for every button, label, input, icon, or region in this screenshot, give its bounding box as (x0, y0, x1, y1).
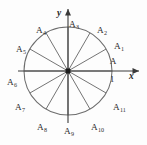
point-label-base: A (16, 44, 23, 54)
x-axis-label: x (128, 71, 134, 81)
point-label-base: A (36, 25, 43, 35)
point-label-A1: A1 (114, 41, 124, 52)
point-label-A7: A7 (15, 102, 25, 113)
unit-circle-figure: AA1A2A3A4A5A6A7A8A9A10A11 x y 1 (0, 0, 147, 145)
point-label-base: A (110, 56, 117, 66)
figure-canvas: AA1A2A3A4A5A6A7A8A9A10A11 x y 1 (0, 0, 147, 145)
point-label-base: A (113, 102, 120, 112)
point-label-subscript: 4 (43, 30, 46, 36)
radius-line-A10 (68, 71, 90, 109)
radius-line-A11 (68, 71, 106, 93)
point-label-A11: A11 (113, 102, 126, 113)
point-label-A2: A2 (97, 25, 107, 36)
point-label-subscript: 1 (121, 46, 124, 52)
point-label-base: A (91, 122, 98, 132)
point-label-A10: A10 (91, 122, 104, 133)
point-label-A5: A5 (16, 44, 26, 55)
point-label-A9: A9 (64, 126, 74, 137)
point-label-subscript: 7 (22, 107, 25, 113)
point-label-subscript: 5 (23, 49, 26, 55)
point-label-subscript: 3 (76, 24, 79, 30)
y-axis-arrowhead (65, 9, 71, 16)
origin-point-dot (66, 69, 71, 74)
point-label-subscript: 11 (120, 107, 126, 113)
radius-line-A2 (68, 33, 90, 71)
point-label-A8: A8 (37, 122, 47, 133)
radius-line-A1 (68, 49, 106, 71)
point-label-base: A (37, 122, 44, 132)
point-label-A6: A6 (7, 77, 17, 88)
point-label-base: A (64, 126, 71, 136)
x-axis-tick-label-1: 1 (110, 75, 114, 84)
point-label-A4: A4 (36, 25, 46, 36)
point-label-subscript: 2 (104, 30, 107, 36)
point-label-A: A (110, 56, 117, 66)
point-label-base: A (69, 19, 76, 29)
point-label-base: A (15, 102, 22, 112)
point-label-subscript: 10 (98, 127, 104, 133)
point-label-subscript: 6 (14, 82, 17, 88)
radius-line-A4 (46, 33, 68, 71)
point-label-base: A (97, 25, 104, 35)
point-label-subscript: 8 (44, 127, 47, 133)
radius-line-A7 (30, 71, 68, 93)
point-label-base: A (114, 41, 121, 51)
radius-line-A5 (30, 49, 68, 71)
point-label-subscript: 9 (71, 131, 74, 137)
point-label-base: A (7, 77, 14, 87)
point-label-A3: A3 (69, 19, 79, 30)
radius-line-A8 (46, 71, 68, 109)
y-axis-label: y (56, 8, 62, 18)
